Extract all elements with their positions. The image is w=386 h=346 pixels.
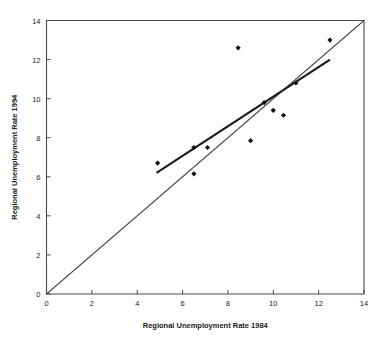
y-tick-label: 6 [36,173,40,182]
data-point-marker [271,108,276,113]
y-tick-label: 14 [32,17,40,26]
x-tick-label: 4 [135,299,139,308]
trend-line-group [156,60,329,173]
plot-frame [47,21,365,295]
y-tick-label: 12 [32,56,40,65]
data-point-marker [205,145,210,150]
x-axis: 02468101214 [44,290,368,308]
x-tick-label: 6 [180,299,184,308]
data-point-marker [191,171,196,176]
y-axis-title: Regional Unemployment Rate 1994 [10,94,19,220]
y-tick-label: 2 [36,251,40,260]
y-tick-label: 0 [36,290,40,299]
x-tick-label: 10 [269,299,277,308]
y-tick-label: 4 [36,212,40,221]
x-tick-label: 0 [44,299,48,308]
y-tick-label: 8 [36,134,40,143]
data-point-marker [155,161,160,166]
scatter-chart-figure: 02468101214 02468101214 Regional Unemplo… [0,0,386,346]
data-point-marker [248,138,253,143]
data-point-marker [236,45,241,50]
data-point-marker [281,113,286,118]
x-tick-label: 14 [360,299,368,308]
x-tick-label: 2 [90,299,94,308]
x-tick-label: 12 [314,299,322,308]
data-point-marker [327,37,332,42]
y-tick-label: 10 [32,95,40,104]
x-tick-label: 8 [226,299,230,308]
y-axis: 02468101214 [32,17,50,300]
x-axis-title: Regional Unemployment Rate 1984 [143,321,269,330]
chart-canvas: 02468101214 02468101214 Regional Unemplo… [0,0,386,346]
